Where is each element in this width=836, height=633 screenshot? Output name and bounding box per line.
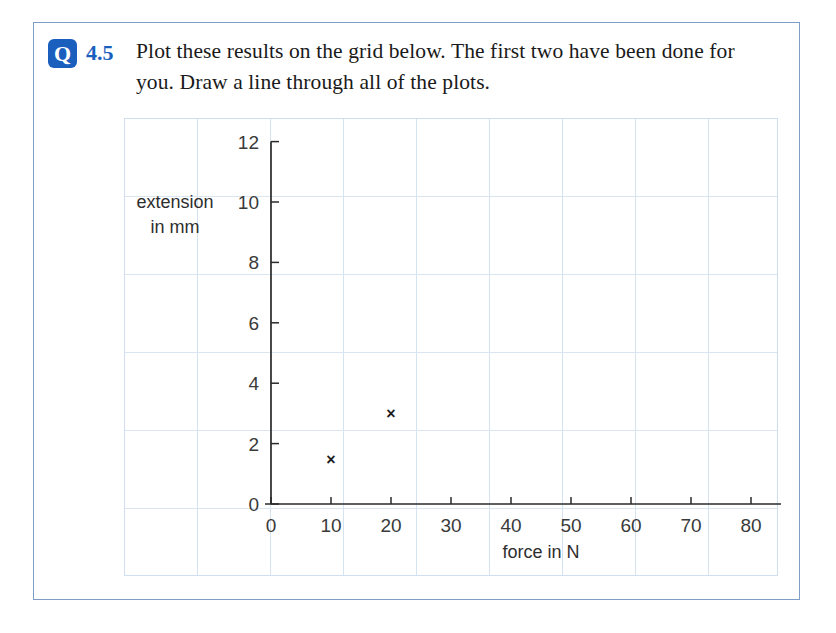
grid-hline xyxy=(124,430,778,431)
graph-paper xyxy=(124,118,778,576)
question-number: 4.5 xyxy=(86,40,114,66)
grid-hline xyxy=(124,274,778,275)
question-text: Plot these results on the grid below. Th… xyxy=(136,36,766,98)
page-root: Q 4.5 Plot these results on the grid bel… xyxy=(0,0,836,633)
grid-hline xyxy=(124,352,778,353)
grid-hline xyxy=(124,196,778,197)
question-badge-icon: Q xyxy=(48,39,77,68)
grid-hline xyxy=(124,508,778,509)
grid-hline xyxy=(124,118,778,119)
